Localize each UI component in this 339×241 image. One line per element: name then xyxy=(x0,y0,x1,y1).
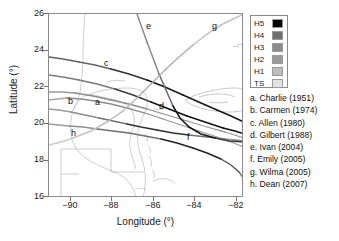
plot-letter-f: f xyxy=(187,133,190,142)
legend-swatch-h5 xyxy=(272,19,283,28)
legend-label-h1: H1 xyxy=(254,68,271,76)
x-tickmark-84 xyxy=(194,197,195,201)
track-e-ivan xyxy=(137,14,243,142)
x-axis-ticks: −90 −88 −86 −84 −82 xyxy=(0,201,339,215)
x-tick-82: −82 xyxy=(219,201,253,210)
x-tickmark-86 xyxy=(153,197,154,201)
legend-swatch-h2 xyxy=(272,55,283,64)
plot-letter-a: a xyxy=(95,98,100,107)
x-tickmark-90 xyxy=(70,197,71,201)
storm-list-item-b: b. Carmen (1974) xyxy=(250,104,339,116)
y-tick-18: 18 xyxy=(18,155,44,164)
y-tickmark-16 xyxy=(44,196,48,197)
y-tickmark-18 xyxy=(44,160,48,161)
track-d-gilbert xyxy=(49,75,243,134)
storm-list-item-e: e. Ivan (2004) xyxy=(250,141,339,153)
legend-label-h4: H4 xyxy=(254,32,271,40)
storm-list-item-a: a. Charlie (1951) xyxy=(250,92,339,104)
x-tickmark-88 xyxy=(111,197,112,201)
legend-label-h3: H3 xyxy=(254,44,271,52)
hurricane-track-figure: a b c d e f g h 26 24 22 20 18 16 −90 −8… xyxy=(0,0,339,241)
map-canvas xyxy=(49,14,243,197)
x-tickmark-82 xyxy=(236,197,237,201)
y-tickmark-26 xyxy=(44,13,48,14)
intensity-legend: H5 H4 H3 H2 H1 TS xyxy=(250,15,288,88)
x-axis-label: Longitude (°) xyxy=(48,216,243,227)
y-tick-24: 24 xyxy=(18,45,44,54)
plot-letter-g: g xyxy=(212,22,217,31)
storm-list-item-f: f. Emily (2005) xyxy=(250,153,339,165)
legend-label-h5: H5 xyxy=(254,20,271,28)
storm-list-item-g: g. Wilma (2005) xyxy=(250,166,339,178)
y-tickmark-22 xyxy=(44,86,48,87)
legend-row-h2: H2 xyxy=(254,54,285,65)
legend-row-h1: H1 xyxy=(254,66,285,77)
cay-outline xyxy=(135,179,175,189)
storm-name-list: a. Charlie (1951) b. Carmen (1974) c. Al… xyxy=(250,92,339,190)
x-tick-90: −90 xyxy=(53,201,87,210)
y-axis-label: Latitude (°) xyxy=(8,40,19,140)
plot-letter-d: d xyxy=(159,102,164,111)
y-tickmark-20 xyxy=(44,123,48,124)
track-b-carmen xyxy=(49,98,243,147)
storm-list-item-d: d. Gilbert (1988) xyxy=(250,129,339,141)
legend-row-h3: H3 xyxy=(254,42,285,53)
legend-label-ts: TS xyxy=(254,80,271,88)
legend-row-h5: H5 xyxy=(254,18,285,29)
legend-swatch-ts xyxy=(272,79,283,88)
y-tick-22: 22 xyxy=(18,82,44,91)
track-f-emily xyxy=(49,124,243,179)
legend-swatch-h1 xyxy=(272,67,283,76)
storm-list-item-h: h. Dean (2007) xyxy=(250,178,339,190)
plot-letter-b: b xyxy=(68,97,73,106)
legend-row-ts: TS xyxy=(254,78,285,89)
legend-swatch-h4 xyxy=(272,31,283,40)
x-tick-84: −84 xyxy=(177,201,211,210)
legend-row-h4: H4 xyxy=(254,30,285,41)
legend-label-h2: H2 xyxy=(254,56,271,64)
cuba-coastline xyxy=(185,44,243,112)
x-tick-86: −86 xyxy=(136,201,170,210)
map-plot-area: a b c d e f g h xyxy=(48,13,243,197)
x-tick-88: −88 xyxy=(94,201,128,210)
plot-letter-h: h xyxy=(71,129,76,138)
y-tick-26: 26 xyxy=(18,9,44,18)
storm-list-item-c: c. Allen (1980) xyxy=(250,117,339,129)
y-tickmark-24 xyxy=(44,50,48,51)
plot-letter-c: c xyxy=(104,59,109,68)
plot-letter-e: e xyxy=(146,22,151,31)
legend-swatch-h3 xyxy=(272,43,283,52)
y-tick-16: 16 xyxy=(18,192,44,201)
y-tick-20: 20 xyxy=(18,118,44,127)
